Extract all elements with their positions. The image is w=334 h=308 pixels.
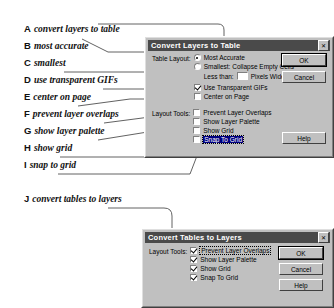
pixels-wide-label: Pixels Wide [251, 73, 285, 80]
cancel-button[interactable]: Cancel [282, 71, 326, 83]
use-transparent-gifs-label: Use Transparent GIFs [204, 84, 268, 91]
close-icon[interactable]: ✕ [318, 40, 329, 51]
checkbox-icon[interactable] [193, 109, 200, 116]
callout-text: smallest [34, 58, 66, 68]
show-grid-label: Show Grid [200, 265, 230, 272]
callout-g: Gshow layer palette [24, 121, 105, 137]
checkbox-icon[interactable] [193, 118, 200, 125]
checkbox-show-layer-palette[interactable]: Show Layer Palette [190, 256, 270, 263]
show-layer-palette-label: Show Layer Palette [203, 118, 259, 125]
callout-letter: G [24, 125, 31, 136]
callout-letter: F [24, 108, 30, 119]
convert-layers-to-table-dialog: Convert Layers to Table ✕ Table Layout: … [144, 36, 334, 158]
callout-letter: H [24, 142, 31, 153]
show-grid-label: Show Grid [203, 127, 233, 134]
dialog2-titlebar[interactable]: Convert Tables to Layers ✕ [145, 232, 330, 243]
callout-text: most accurate [34, 41, 89, 51]
callout-text: show grid [34, 143, 72, 153]
checkbox-icon[interactable] [190, 256, 197, 263]
checkbox-icon[interactable] [194, 84, 201, 91]
cancel-button[interactable]: Cancel [279, 263, 323, 275]
snap-to-grid-label: Snap To Grid [203, 136, 243, 143]
checkbox-show-layer-palette[interactable]: Show Layer Palette [193, 118, 271, 125]
radio-icon[interactable] [194, 54, 201, 61]
checkbox-show-grid[interactable]: Show Grid [190, 265, 270, 272]
callout-letter: A [24, 23, 31, 34]
layout-tools-label: Layout Tools: [152, 109, 190, 117]
layout-tools-label: Layout Tools: [149, 247, 187, 255]
layout-tools-group: Layout Tools: Prevent Layer Overlaps Sho… [152, 109, 294, 145]
radio-most-accurate-label: Most Accurate [204, 54, 245, 61]
checkbox-icon[interactable] [193, 136, 200, 143]
table-layout-group: Table Layout: Most Accurate Smallest: Co… [152, 54, 294, 102]
callout-f: Fprevent layer overlaps [24, 104, 119, 120]
callout-h: Hshow grid [24, 138, 72, 154]
radio-smallest[interactable]: Smallest: Collapse Empty Cells [194, 63, 294, 70]
checkbox-icon[interactable] [190, 247, 197, 254]
help-button[interactable]: Help [279, 279, 323, 291]
callout-letter: D [24, 74, 31, 85]
callout-text: convert layers to table [34, 24, 120, 34]
radio-icon[interactable] [194, 63, 201, 70]
checkbox-use-transparent-gifs[interactable]: Use Transparent GIFs [194, 84, 294, 91]
callout-text: prevent layer overlaps [33, 109, 119, 119]
ok-button[interactable]: OK [279, 247, 323, 259]
less-than-label: Less than: [204, 73, 234, 80]
callout-text: show layer palette [34, 126, 104, 136]
callout-text: use transparent GIFs [34, 75, 118, 85]
snap-to-grid-label: Snap To Grid [200, 274, 238, 281]
dialog1-controls: Table Layout: Most Accurate Smallest: Co… [152, 54, 294, 145]
callout-i: Isnap to grid [24, 155, 76, 171]
callout-b: Bmost accurate [24, 36, 89, 52]
dialog1-titlebar[interactable]: Convert Layers to Table ✕ [148, 40, 330, 51]
callout-j: Jconvert tables to layers [24, 189, 122, 205]
dialog2-title: Convert Tables to Layers [148, 232, 242, 243]
callout-e: Ecenter on page [24, 87, 91, 103]
callout-letter: B [24, 40, 31, 51]
dialog1-button-column: OK Cancel [282, 54, 326, 88]
callout-d: Duse transparent GIFs [24, 70, 118, 86]
close-icon[interactable]: ✕ [318, 232, 329, 243]
checkbox-snap-to-grid[interactable]: Snap To Grid [193, 136, 271, 143]
callout-letter: I [24, 159, 27, 170]
callout-text: snap to grid [30, 160, 76, 170]
dialog1-title: Convert Layers to Table [151, 40, 240, 51]
checkbox-icon[interactable] [190, 274, 197, 281]
callout-text: convert tables to layers [32, 194, 121, 204]
checkbox-icon[interactable] [194, 93, 201, 100]
checkbox-prevent-layer-overlaps[interactable]: Prevent Layer Overlaps [193, 109, 271, 116]
callout-letter: C [24, 57, 31, 68]
checkbox-icon[interactable] [193, 127, 200, 134]
callout-c: Csmallest [24, 53, 66, 69]
table-layout-label: Table Layout: [152, 54, 191, 62]
callout-text: center on page [33, 92, 91, 102]
center-on-page-label: Center on Page [204, 93, 250, 100]
checkbox-snap-to-grid[interactable]: Snap To Grid [190, 274, 270, 281]
callout-a: Aconvert layers to table [24, 19, 120, 35]
callout-letter: E [24, 91, 30, 102]
ok-button[interactable]: OK [282, 54, 326, 66]
less-than-row: Less than: Pixels Wide [204, 72, 294, 80]
less-than-input[interactable] [237, 72, 248, 80]
prevent-layer-overlaps-label: Prevent Layer Overlaps [203, 109, 271, 116]
radio-smallest-label: Smallest: Collapse Empty Cells [204, 63, 294, 70]
checkbox-icon[interactable] [190, 265, 197, 272]
dialog2-button-column: OK Cancel Help [279, 247, 323, 295]
help-button[interactable]: Help [282, 132, 326, 144]
checkbox-center-on-page[interactable]: Center on Page [194, 93, 294, 100]
show-layer-palette-label: Show Layer Palette [200, 256, 256, 263]
radio-most-accurate[interactable]: Most Accurate [194, 54, 294, 61]
checkbox-prevent-layer-overlaps[interactable]: Prevent Layer Overlaps [190, 247, 270, 254]
dialog2-controls: Layout Tools: Prevent Layer Overlaps Sho… [149, 247, 270, 283]
checkbox-show-grid[interactable]: Show Grid [193, 127, 271, 134]
convert-tables-to-layers-dialog: Convert Tables to Layers ✕ Layout Tools:… [141, 228, 334, 308]
callout-letter: J [24, 193, 29, 204]
prevent-layer-overlaps-label: Prevent Layer Overlaps [200, 247, 270, 254]
